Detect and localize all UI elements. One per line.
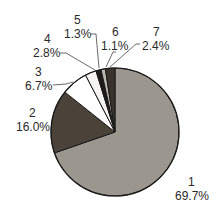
label-percent: 1.1% [101, 39, 128, 53]
label-percent: 1.3% [64, 27, 91, 41]
leader-line-5 [91, 34, 99, 68]
label-category: 3 [25, 65, 52, 79]
label-percent: 2.4% [142, 39, 169, 53]
label-slice-7: 7 2.4% [142, 25, 169, 53]
label-percent: 16.0% [16, 120, 50, 134]
leader-line-4 [60, 53, 95, 70]
leader-line-3 [53, 82, 73, 85]
label-category: 5 [64, 13, 91, 27]
label-slice-3: 3 6.7% [25, 65, 52, 93]
label-category: 2 [16, 106, 50, 120]
label-category: 4 [33, 32, 60, 46]
label-slice-5: 5 1.3% [64, 13, 91, 41]
label-percent: 6.7% [25, 79, 52, 93]
label-slice-4: 4 2.8% [33, 32, 60, 60]
label-percent: 69.7% [175, 189, 209, 203]
label-slice-1: 1 69.7% [175, 175, 209, 203]
label-percent: 2.8% [33, 46, 60, 60]
leader-line-6 [106, 52, 116, 67]
label-slice-2: 2 16.0% [16, 106, 50, 134]
label-category: 7 [142, 25, 169, 39]
label-category: 6 [101, 25, 128, 39]
label-slice-6: 6 1.1% [101, 25, 128, 53]
pie-slices [51, 68, 179, 196]
label-category: 1 [175, 175, 209, 189]
